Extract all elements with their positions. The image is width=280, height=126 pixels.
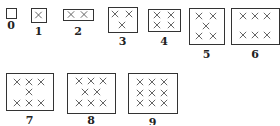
digit-group-2: 2 [64, 10, 94, 39]
digit-group-9: 9 [129, 74, 178, 126]
x-mark-icon [100, 78, 106, 84]
x-mark-icon [137, 79, 143, 85]
x-mark-icon [100, 100, 106, 106]
x-mark-icon [68, 11, 74, 17]
x-mark-icon [38, 79, 44, 85]
x-mark-icon [137, 90, 143, 96]
digit-box [68, 74, 116, 114]
digit-label: 5 [203, 48, 211, 61]
x-mark-icon [154, 12, 160, 18]
x-mark-icon [203, 23, 209, 29]
digit-group-7: 7 [7, 74, 54, 126]
x-mark-icon [26, 100, 32, 106]
x-mark-icon [210, 33, 216, 39]
digit-box [7, 9, 17, 19]
x-mark-icon [161, 79, 167, 85]
x-mark-icon [35, 12, 41, 18]
x-mark-icon [38, 100, 44, 106]
x-mark-icon [94, 89, 100, 95]
digit-box [232, 9, 280, 45]
x-mark-icon [137, 100, 143, 106]
digit-group-0: 0 [7, 9, 17, 33]
digit-label: 8 [87, 114, 95, 125]
digit-group-4: 4 [149, 10, 181, 49]
x-mark-icon [112, 11, 118, 17]
x-mark-icon [76, 78, 82, 84]
x-mark-icon [252, 32, 258, 38]
digit-group-5: 5 [190, 9, 225, 62]
digit-label: 4 [160, 35, 168, 48]
digit-label: 2 [74, 25, 82, 38]
x-mark-icon [119, 22, 125, 28]
x-mark-icon [126, 11, 132, 17]
x-mark-icon [14, 100, 20, 106]
digit-box-diagram: 0123456789 [0, 0, 280, 125]
x-mark-icon [240, 13, 246, 19]
digit-label: 3 [119, 35, 127, 48]
x-mark-icon [149, 79, 155, 85]
x-mark-icon [149, 100, 155, 106]
digit-label: 9 [149, 116, 157, 125]
digit-group-6: 6 [232, 9, 280, 62]
x-mark-icon [252, 13, 258, 19]
x-mark-icon [168, 22, 174, 28]
digit-label: 7 [26, 114, 34, 125]
x-mark-icon [81, 11, 87, 17]
digit-label: 0 [7, 19, 15, 32]
x-mark-icon [154, 22, 160, 28]
x-mark-icon [82, 89, 88, 95]
digit-group-1: 1 [32, 9, 47, 39]
x-mark-icon [168, 12, 174, 18]
x-mark-icon [196, 33, 202, 39]
x-mark-icon [264, 13, 270, 19]
x-mark-icon [161, 90, 167, 96]
x-mark-icon [240, 32, 246, 38]
digit-label: 1 [35, 25, 43, 38]
x-mark-icon [26, 79, 32, 85]
x-mark-icon [161, 100, 167, 106]
x-mark-icon [26, 89, 32, 95]
x-mark-icon [88, 100, 94, 106]
x-mark-icon [76, 100, 82, 106]
x-mark-icon [14, 79, 20, 85]
digit-box [7, 74, 54, 111]
x-mark-icon [196, 13, 202, 19]
digit-box [149, 10, 181, 32]
digit-label: 6 [251, 48, 259, 61]
digit-group-8: 8 [68, 74, 116, 126]
x-mark-icon [149, 90, 155, 96]
x-mark-icon [88, 78, 94, 84]
x-mark-icon [264, 32, 270, 38]
digit-group-3: 3 [109, 8, 138, 49]
x-mark-icon [210, 13, 216, 19]
